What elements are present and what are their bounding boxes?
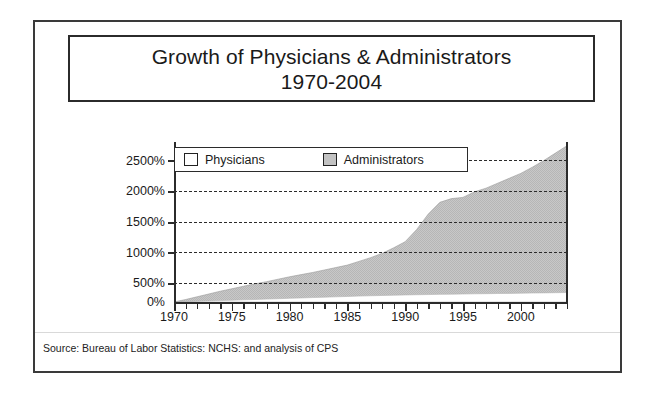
x-tick-2004 <box>567 304 568 309</box>
legend-label-administrators: Administrators <box>344 153 424 167</box>
x-tick-2001 <box>532 304 533 309</box>
x-tick-label-1990: 1990 <box>391 311 419 324</box>
y-tick-label-0: 0% <box>101 296 165 309</box>
x-tick-1984 <box>336 304 337 309</box>
x-tick-1972 <box>197 304 198 309</box>
plot-right-border <box>566 142 568 304</box>
chart-legend: Physicians Administrators <box>174 147 468 172</box>
legend-item-administrators[interactable]: Administrators <box>323 153 424 167</box>
x-tick-1986 <box>359 304 360 309</box>
x-tick-1977 <box>255 304 256 309</box>
x-tick-1999 <box>509 304 510 309</box>
x-tick-label-1970: 1970 <box>160 311 188 324</box>
x-tick-label-1995: 1995 <box>449 311 477 324</box>
x-tick-1997 <box>486 304 487 309</box>
white-square-icon <box>184 153 198 166</box>
x-tick-1993 <box>440 304 441 309</box>
x-tick-2002 <box>544 304 545 309</box>
x-tick-label-1985: 1985 <box>333 311 361 324</box>
x-tick-1987 <box>371 304 372 309</box>
x-tick-1971 <box>186 304 187 309</box>
gridline-500 <box>174 283 567 284</box>
source-divider <box>35 332 620 333</box>
source-note: Source: Bureau of Labor Statistics: NCHS… <box>43 342 338 354</box>
x-tick-1983 <box>324 304 325 309</box>
y-tick-label-1000: 1000% <box>101 247 165 260</box>
gridline-2000 <box>174 191 567 192</box>
x-tick-1988 <box>382 304 383 309</box>
x-tick-1973 <box>209 304 210 309</box>
x-tick-1974 <box>220 304 221 309</box>
legend-item-physicians[interactable]: Physicians <box>184 153 265 167</box>
y-tick-label-1500: 1500% <box>101 216 165 229</box>
gridline-1000 <box>174 252 567 253</box>
x-tick-1981 <box>301 304 302 309</box>
x-tick-1992 <box>428 304 429 309</box>
gridline-1500 <box>174 222 567 223</box>
y-tick-label-500: 500% <box>101 277 165 290</box>
x-tick-2003 <box>555 304 556 309</box>
y-tick-label-2500: 2500% <box>101 155 165 168</box>
x-tick-label-1975: 1975 <box>218 311 246 324</box>
x-tick-1976 <box>243 304 244 309</box>
x-tick-1979 <box>278 304 279 309</box>
x-tick-label-2000: 2000 <box>507 311 535 324</box>
x-tick-1996 <box>475 304 476 309</box>
legend-label-physicians: Physicians <box>205 153 265 167</box>
gray-square-icon <box>323 153 337 166</box>
x-tick-1991 <box>417 304 418 309</box>
x-tick-1994 <box>451 304 452 309</box>
x-tick-1978 <box>267 304 268 309</box>
x-tick-1998 <box>498 304 499 309</box>
x-tick-label-1980: 1980 <box>276 311 304 324</box>
figure-frame: Growth of Physicians & Administrators 19… <box>33 20 622 373</box>
y-axis: 2500% 2000% 1500% 1000% 500% 0% <box>97 22 165 322</box>
x-tick-1989 <box>394 304 395 309</box>
chart-container: GROWTH SINCE 1970 2500% 2000% 1500% 1000… <box>35 22 624 375</box>
y-tick-label-2000: 2000% <box>101 185 165 198</box>
x-tick-1982 <box>313 304 314 309</box>
